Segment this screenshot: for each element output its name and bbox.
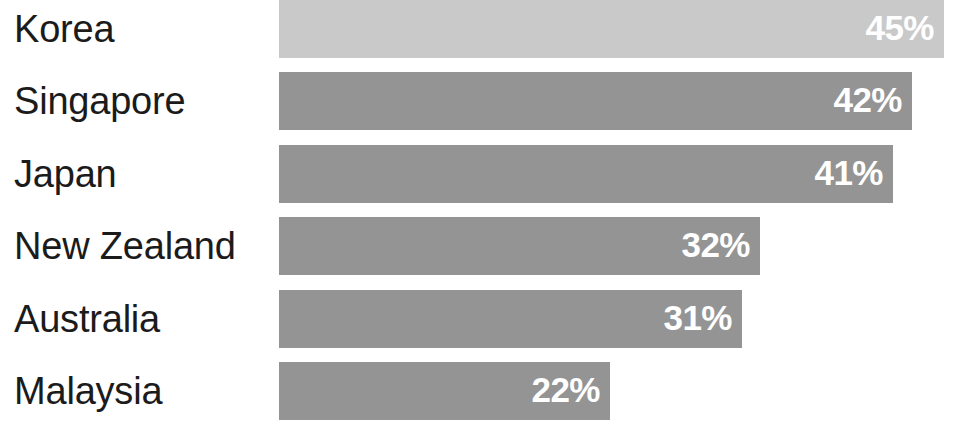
category-label: Malaysia	[14, 362, 162, 420]
bar: 22%	[279, 362, 610, 420]
bar: 32%	[279, 217, 760, 275]
category-label: New Zealand	[14, 217, 236, 275]
chart-row: Malaysia 22%	[0, 362, 961, 420]
category-label: Korea	[14, 0, 114, 58]
bar-value-label: 22%	[531, 362, 600, 420]
chart-row: Japan 41%	[0, 145, 961, 203]
bar: 41%	[279, 145, 893, 203]
bar: 31%	[279, 290, 742, 348]
chart-row: New Zealand 32%	[0, 217, 961, 275]
chart-row: Singapore 42%	[0, 72, 961, 130]
bar-value-label: 45%	[865, 0, 934, 58]
bar-value-label: 31%	[663, 290, 732, 348]
chart-row: Australia 31%	[0, 290, 961, 348]
bar-value-label: 42%	[833, 72, 902, 130]
category-label: Singapore	[14, 72, 185, 130]
category-label: Australia	[14, 290, 160, 348]
chart-row: Korea 45%	[0, 0, 961, 58]
bar-value-label: 32%	[681, 217, 750, 275]
bar: 45%	[279, 0, 944, 58]
bar: 42%	[279, 72, 912, 130]
bar-value-label: 41%	[814, 145, 883, 203]
horizontal-bar-chart: Korea 45% Singapore 42% Japan 41% New Ze…	[0, 0, 961, 434]
category-label: Japan	[14, 145, 117, 203]
